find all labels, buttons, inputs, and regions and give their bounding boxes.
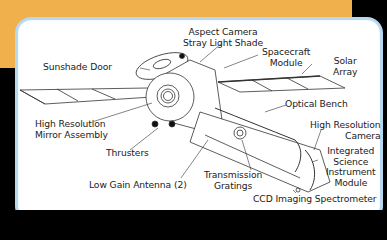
label-line: High Resolution bbox=[310, 120, 381, 131]
label-line: Aspect Camera bbox=[183, 27, 263, 38]
label-solar-array: Solar Array bbox=[333, 56, 357, 77]
label-hrma: High Resolution Mirror Assembly bbox=[35, 119, 108, 140]
thruster-2 bbox=[169, 121, 175, 127]
label-line: Transmission bbox=[204, 170, 262, 181]
label-transmission-gratings: Transmission Gratings bbox=[204, 170, 262, 191]
label-line: Module bbox=[262, 58, 310, 69]
label-low-gain-antenna: Low Gain Antenna (2) bbox=[89, 180, 187, 191]
label-line: Stray Light Shade bbox=[183, 38, 263, 49]
label-sunshade-door: Sunshade Door bbox=[43, 62, 112, 73]
label-line: High Resolution bbox=[35, 119, 108, 130]
label-line: Camera bbox=[310, 131, 381, 142]
label-line: Module bbox=[326, 178, 376, 189]
transmission-gratings bbox=[234, 127, 246, 139]
label-line: Instrument bbox=[326, 167, 376, 178]
thruster-1 bbox=[152, 121, 158, 127]
label-ccd-spectrometer: CCD Imaging Spectrometer bbox=[253, 194, 376, 205]
label-aspect-camera: Aspect Camera Stray Light Shade bbox=[183, 27, 263, 48]
mirror-assembly bbox=[146, 73, 194, 121]
label-line: Spacecraft bbox=[262, 47, 310, 58]
label-hrc: High Resolution Camera bbox=[310, 120, 381, 141]
label-line: Mirror Assembly bbox=[35, 130, 108, 141]
label-spacecraft-module: Spacecraft Module bbox=[262, 47, 310, 68]
label-line: Integrated bbox=[326, 146, 376, 157]
label-thrusters: Thrusters bbox=[106, 148, 149, 159]
label-line: Array bbox=[333, 67, 357, 78]
label-line: Solar bbox=[333, 56, 357, 67]
left-solar-array bbox=[20, 88, 152, 104]
label-line: Gratings bbox=[204, 181, 262, 192]
aspect-camera bbox=[180, 54, 185, 59]
label-isim: Integrated Science Instrument Module bbox=[326, 146, 376, 188]
label-optical-bench: Optical Bench bbox=[285, 99, 348, 110]
